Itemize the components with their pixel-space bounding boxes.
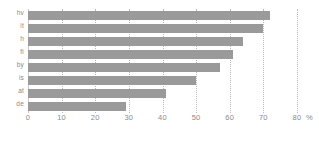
gridline-80 <box>297 9 299 113</box>
y-axis-tick-label: it <box>20 21 24 31</box>
bar <box>28 102 126 111</box>
bar-row: hv <box>28 9 297 22</box>
x-axis-tick-label: 10 <box>57 113 66 122</box>
bar-row: fi <box>28 48 297 61</box>
bar-row: it <box>28 22 297 35</box>
x-axis-unit-label: % <box>306 113 313 122</box>
plot-area: hvithfibyisatde <box>28 9 297 113</box>
x-axis-tick-label: 0 <box>26 113 30 122</box>
bar-row: is <box>28 74 297 87</box>
x-axis-tick-label: 40 <box>158 113 167 122</box>
bar <box>28 37 243 46</box>
x-axis-tick-label: 20 <box>91 113 100 122</box>
y-axis-tick-label: de <box>16 99 24 109</box>
y-axis-tick-label: h <box>20 34 24 44</box>
x-axis-tick-label: 80 <box>293 113 302 122</box>
bar-series: hvithfibyisatde <box>28 9 297 113</box>
x-axis-tick-label: 50 <box>192 113 201 122</box>
bar-chart: hvithfibyisatde 01020304050607080% <box>0 0 319 144</box>
bar <box>28 76 196 85</box>
x-axis-tick-label: 60 <box>225 113 234 122</box>
x-axis-tick-label: 70 <box>259 113 268 122</box>
y-axis-tick-label: at <box>18 86 24 96</box>
y-axis-tick-label: is <box>19 73 24 83</box>
bar <box>28 50 233 59</box>
x-axis: 01020304050607080% <box>0 113 319 133</box>
y-axis-tick-label: by <box>17 60 24 70</box>
bar <box>28 24 263 33</box>
bar <box>28 89 166 98</box>
bar <box>28 63 220 72</box>
x-axis-tick-label: 30 <box>124 113 133 122</box>
bar-row: at <box>28 87 297 100</box>
bar-row: by <box>28 61 297 74</box>
bar-row: h <box>28 35 297 48</box>
y-axis-tick-label: fi <box>20 47 24 57</box>
bar <box>28 11 270 20</box>
y-axis-tick-label: hv <box>17 8 24 18</box>
bar-row: de <box>28 100 297 113</box>
